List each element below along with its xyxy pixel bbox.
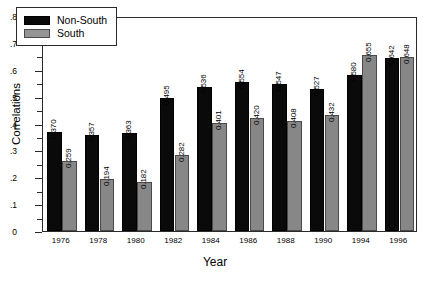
bar-non-south-1976 [47, 132, 62, 231]
bar-south-1980 [137, 182, 152, 231]
bar-south-1994 [362, 55, 377, 231]
y-tick-major [35, 232, 42, 233]
x-tick-label-1982: 1982 [164, 236, 182, 245]
chart-figure: 0.1.2.3.4.5.6.7.8 Correlations 0.3700.25… [0, 0, 430, 282]
bar-value-label: 0.357 [88, 123, 96, 143]
y-tick-major [35, 178, 42, 179]
bar-value-label: 0.642 [388, 46, 396, 66]
y-tick-major [35, 205, 42, 206]
x-axis-label: Year [0, 255, 430, 269]
bar-non-south-1994 [347, 75, 362, 231]
bar-value-label: 0.554 [238, 70, 246, 90]
y-tick-label: .1 [10, 201, 17, 209]
x-tick-label-1980: 1980 [127, 236, 145, 245]
bar-south-1984 [212, 123, 227, 231]
bar-value-label: 0.363 [125, 121, 133, 141]
bar-value-label: 0.495 [163, 85, 171, 105]
y-tick-major [35, 125, 42, 126]
legend-item-non-south: Non-South [24, 14, 107, 26]
bar-value-label: 0.547 [275, 71, 283, 91]
y-tick-label: 0 [12, 228, 17, 236]
bar-non-south-1990 [310, 89, 325, 231]
x-tick-label-1996: 1996 [389, 236, 407, 245]
bar-south-1976 [62, 161, 77, 231]
bar-south-1982 [175, 155, 190, 231]
bar-non-south-1982 [160, 98, 175, 231]
bar-non-south-1980 [122, 133, 137, 231]
legend-item-south: South [24, 27, 107, 39]
x-tick-label-1990: 1990 [314, 236, 332, 245]
bar-value-label: 0.182 [140, 170, 148, 190]
x-tick-label-1988: 1988 [277, 236, 295, 245]
bar-value-label: 0.580 [350, 63, 358, 83]
y-tick-major [35, 151, 42, 152]
bar-south-1988 [287, 121, 302, 231]
bar-value-label: 0.370 [50, 119, 58, 139]
bar-value-label: 0.648 [403, 44, 411, 64]
bar-non-south-1996 [385, 58, 400, 231]
bar-south-1996 [400, 57, 415, 231]
bar-value-label: 0.259 [65, 149, 73, 169]
bar-value-label: 0.536 [200, 74, 208, 94]
x-tick-label-1978: 1978 [89, 236, 107, 245]
chart-legend: Non-South South [16, 7, 117, 46]
x-tick-label-1994: 1994 [352, 236, 370, 245]
x-tick-label-1984: 1984 [202, 236, 220, 245]
bar-south-1986 [250, 118, 265, 231]
bar-non-south-1988 [272, 84, 287, 231]
bar-value-label: 0.401 [215, 111, 223, 131]
legend-label-south: South [57, 28, 84, 38]
bar-value-label: 0.527 [313, 77, 321, 97]
bar-non-south-1978 [85, 135, 100, 231]
bar-value-label: 0.408 [290, 109, 298, 129]
bar-value-label: 0.420 [253, 106, 261, 126]
bar-non-south-1984 [197, 87, 212, 231]
bar-value-label: 0.655 [365, 42, 373, 62]
y-tick-label: .2 [10, 174, 17, 182]
plot-area: 0.3700.2590.3570.1940.3630.1820.4950.282… [42, 17, 417, 232]
y-axis-label: Correlations [10, 64, 22, 164]
bar-non-south-1986 [235, 82, 250, 231]
y-tick-major [35, 71, 42, 72]
bar-value-label: 0.282 [178, 143, 186, 163]
legend-swatch-south [24, 29, 50, 38]
bar-south-1978 [100, 179, 115, 231]
x-tick-label-1976: 1976 [52, 236, 70, 245]
bar-south-1990 [325, 115, 340, 231]
x-tick-label-1986: 1986 [239, 236, 257, 245]
legend-label-non-south: Non-South [57, 15, 107, 25]
legend-swatch-non-south [24, 16, 50, 25]
bar-value-label: 0.194 [103, 166, 111, 186]
bar-value-label: 0.432 [328, 102, 336, 122]
y-tick-major [35, 98, 42, 99]
